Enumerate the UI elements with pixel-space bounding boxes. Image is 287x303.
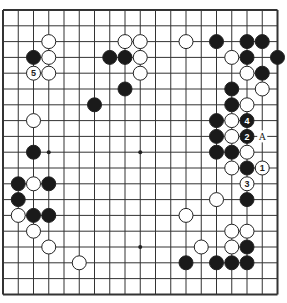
black-stone: 2 xyxy=(240,129,254,143)
black-stone xyxy=(88,98,102,112)
white-stone xyxy=(179,208,193,222)
black-stone xyxy=(225,256,239,270)
white-stone xyxy=(72,256,86,270)
star-point xyxy=(47,150,51,154)
white-stone xyxy=(179,35,193,49)
black-stone xyxy=(240,50,254,64)
black-stone xyxy=(179,256,193,270)
black-stone xyxy=(103,50,117,64)
black-stone xyxy=(210,114,224,128)
white-stone xyxy=(225,240,239,254)
move-number-label: 5 xyxy=(31,68,36,78)
white-stone xyxy=(42,35,56,49)
black-stone xyxy=(210,129,224,143)
black-stone xyxy=(240,256,254,270)
black-stone xyxy=(42,208,56,222)
point-label-a: A xyxy=(259,131,267,142)
white-stone xyxy=(240,224,254,238)
move-number-label: 4 xyxy=(244,116,249,126)
go-board[interactable]: 12345 A xyxy=(0,0,287,303)
black-stone: 4 xyxy=(240,114,254,128)
black-stone xyxy=(118,50,132,64)
star-point xyxy=(138,245,142,249)
black-stone xyxy=(255,66,269,80)
white-stone xyxy=(27,114,41,128)
white-stone xyxy=(42,66,56,80)
black-stone xyxy=(42,177,56,191)
white-stone xyxy=(118,35,132,49)
white-stone xyxy=(225,129,239,143)
black-stone xyxy=(240,35,254,49)
white-stone xyxy=(225,50,239,64)
black-stone xyxy=(210,145,224,159)
black-stone xyxy=(210,256,224,270)
white-stone xyxy=(225,224,239,238)
black-stone xyxy=(118,82,132,96)
black-stone xyxy=(210,35,224,49)
white-stone: 5 xyxy=(27,66,41,80)
white-stone xyxy=(240,145,254,159)
white-stone xyxy=(133,35,147,49)
white-stone: 1 xyxy=(255,161,269,175)
white-stone xyxy=(42,240,56,254)
move-number-label: 3 xyxy=(244,179,249,189)
white-stone xyxy=(133,50,147,64)
white-stone xyxy=(27,177,41,191)
white-stone xyxy=(225,114,239,128)
black-stone xyxy=(27,145,41,159)
white-stone xyxy=(225,161,239,175)
black-stone xyxy=(271,50,285,64)
white-stone xyxy=(27,224,41,238)
white-stone xyxy=(194,240,208,254)
black-stone xyxy=(27,208,41,222)
white-stone xyxy=(255,82,269,96)
black-stone xyxy=(225,145,239,159)
white-stone xyxy=(133,66,147,80)
white-stone xyxy=(240,98,254,112)
star-point xyxy=(138,150,142,154)
black-stone xyxy=(255,35,269,49)
black-stone xyxy=(225,98,239,112)
white-stone xyxy=(11,208,25,222)
black-stone xyxy=(11,193,25,207)
white-stone xyxy=(240,66,254,80)
white-stone xyxy=(42,50,56,64)
move-number-label: 2 xyxy=(244,132,249,142)
black-stone xyxy=(11,177,25,191)
black-stone xyxy=(240,161,254,175)
white-stone: 3 xyxy=(240,177,254,191)
black-stone xyxy=(240,193,254,207)
marks-layer: A xyxy=(257,130,267,142)
black-stone xyxy=(225,82,239,96)
move-number-label: 1 xyxy=(260,163,265,173)
black-stone xyxy=(27,50,41,64)
black-stone xyxy=(240,240,254,254)
white-stone xyxy=(210,193,224,207)
